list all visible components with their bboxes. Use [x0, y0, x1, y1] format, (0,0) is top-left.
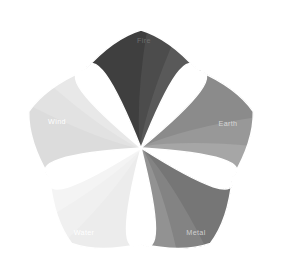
five-elements-diagram: FireEarthMetalWaterWind: [0, 0, 283, 272]
petal-rosette-svg: FireEarthMetalWaterWind: [0, 0, 283, 272]
